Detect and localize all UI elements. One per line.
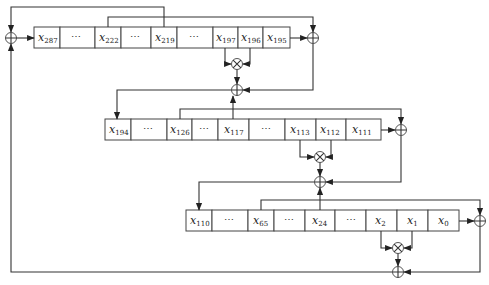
label-dots: ⋯: [130, 31, 140, 42]
xor-gate-a-input: [6, 33, 17, 44]
label-dots: ⋯: [189, 31, 199, 42]
label-dots: ⋯: [71, 31, 81, 42]
xor-gate-b-output: [396, 125, 407, 136]
xor-gate-b-feed: [315, 177, 326, 188]
xor-gate-c-feed: [393, 267, 404, 278]
label-dots: ⋯: [143, 123, 153, 134]
label-dots: ⋯: [284, 214, 294, 225]
label-dots: ⋯: [261, 123, 271, 134]
xor-gate-a-feed: [232, 85, 243, 96]
xor-gate-c-output: [475, 216, 486, 227]
and-gate-c: [393, 243, 404, 254]
gates: [6, 33, 486, 278]
label-dots: ⋯: [224, 214, 234, 225]
trivium-diagram: x287 ⋯ x222 ⋯ x219 ⋯ x197 x196 x195 x194…: [0, 0, 489, 285]
and-gate-a: [232, 59, 243, 70]
register-c: x110 ⋯ x65 ⋯ x24 ⋯ x2 x1 x0: [186, 210, 459, 231]
register-b: x194 ⋯ x126 ⋯ x117 ⋯ x113 x112 x111: [105, 119, 381, 140]
register-a: x287 ⋯ x222 ⋯ x219 ⋯ x197 x196 x195: [34, 27, 290, 48]
label-dots: ⋯: [199, 123, 209, 134]
label-dots: ⋯: [346, 214, 356, 225]
xor-gate-a-output: [308, 33, 319, 44]
and-gate-b: [315, 152, 326, 163]
